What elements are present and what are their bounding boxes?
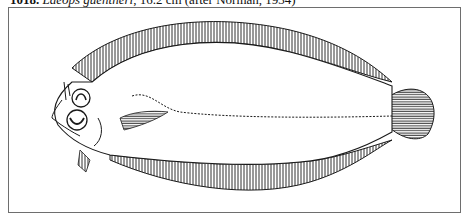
lower-eye	[67, 110, 87, 130]
fish-illustration	[0, 0, 472, 220]
upper-eye	[72, 89, 90, 107]
caudal-fin	[390, 89, 434, 139]
